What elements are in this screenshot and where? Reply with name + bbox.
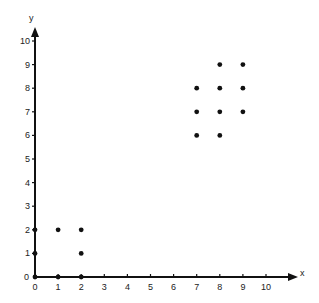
x-tick-label: 9: [240, 282, 245, 292]
data-point: [33, 251, 38, 256]
data-point: [217, 109, 222, 114]
x-tick-label: 4: [125, 282, 130, 292]
y-tick-label: 9: [25, 60, 30, 70]
data-point: [217, 86, 222, 91]
y-tick-label: 2: [25, 225, 30, 235]
data-point: [33, 275, 38, 280]
x-tick-label: 5: [148, 282, 153, 292]
data-point: [217, 62, 222, 67]
data-point: [194, 86, 199, 91]
scatter-chart: 012345678910012345678910 x y: [0, 0, 319, 303]
data-point: [217, 133, 222, 138]
axes: [31, 27, 298, 281]
x-axis-arrow-icon: [288, 273, 298, 281]
data-point: [241, 62, 246, 67]
ticks: 012345678910012345678910: [20, 36, 271, 292]
data-point: [79, 275, 84, 280]
data-point: [79, 227, 84, 232]
y-axis-arrow-icon: [31, 27, 39, 37]
data-point: [241, 86, 246, 91]
x-tick-label: 2: [79, 282, 84, 292]
data-point: [33, 227, 38, 232]
y-tick-label: 10: [20, 36, 30, 46]
data-point: [241, 109, 246, 114]
data-points: [33, 62, 246, 279]
data-point: [194, 109, 199, 114]
x-axis-label: x: [300, 268, 305, 278]
x-tick-label: 0: [32, 282, 37, 292]
data-point: [56, 275, 61, 280]
data-point: [194, 133, 199, 138]
y-tick-label: 6: [25, 130, 30, 140]
x-tick-label: 3: [102, 282, 107, 292]
data-point: [79, 251, 84, 256]
x-tick-label: 6: [171, 282, 176, 292]
x-tick-label: 8: [217, 282, 222, 292]
y-tick-label: 8: [25, 83, 30, 93]
y-tick-label: 1: [25, 248, 30, 258]
y-tick-label: 0: [24, 272, 29, 282]
y-tick-label: 7: [25, 107, 30, 117]
x-tick-label: 7: [194, 282, 199, 292]
x-tick-label: 10: [261, 282, 271, 292]
data-point: [56, 227, 61, 232]
y-axis-label: y: [29, 13, 34, 23]
x-tick-label: 1: [56, 282, 61, 292]
y-tick-label: 3: [25, 201, 30, 211]
y-tick-label: 4: [25, 178, 30, 188]
y-tick-label: 5: [25, 154, 30, 164]
